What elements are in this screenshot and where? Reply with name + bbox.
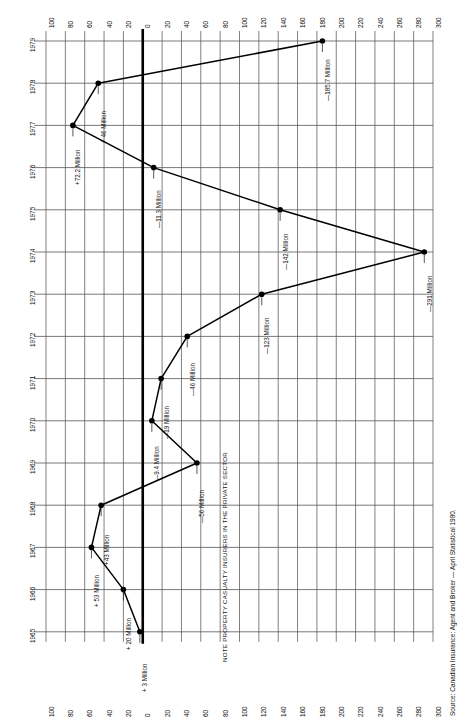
value-tick-bottom-20-6: 20 <box>165 710 171 717</box>
value-tick-top-140-12: 140 <box>281 17 287 28</box>
value-tick-top-60-2: 60 <box>87 21 93 28</box>
data-point-marker <box>70 123 76 129</box>
value-tick-bottom-160-13: 160 <box>300 706 306 717</box>
value-tick-bottom-260-18: 260 <box>397 706 403 717</box>
data-point-label-1975: —142 Million <box>283 233 289 269</box>
value-tick-bottom-40-3: 40 <box>107 710 113 717</box>
value-tick-bottom-180-14: 180 <box>320 706 326 717</box>
value-tick-top-260-18: 260 <box>397 17 403 28</box>
value-tick-top-20-6: 20 <box>165 21 171 28</box>
value-tick-top-240-17: 240 <box>378 17 384 28</box>
value-tick-top-180-14: 180 <box>320 17 326 28</box>
value-tick-top-120-11: 120 <box>261 17 267 28</box>
value-tick-bottom-80-1: 80 <box>68 710 74 717</box>
value-tick-top-0-5: 0 <box>145 24 151 28</box>
data-point-marker <box>194 460 200 466</box>
data-point-label-1976: —11.3 Million <box>156 190 162 228</box>
value-tick-top-20-4: 20 <box>126 21 132 28</box>
value-tick-bottom-240-17: 240 <box>378 706 384 717</box>
category-axis-label-1976: 1976 <box>30 164 36 178</box>
data-point-marker <box>259 291 265 297</box>
data-point-label-1967: + 53 Million <box>94 575 100 607</box>
data-point-label-1972: —46 Million <box>190 363 196 396</box>
value-tick-top-40-7: 40 <box>184 21 190 28</box>
chart-source-caption: Source: Canadian Insurance: Agent and Br… <box>450 509 457 716</box>
category-axis-label-1973: 1973 <box>30 291 36 305</box>
value-tick-bottom-280-19: 280 <box>416 706 422 717</box>
value-tick-top-80-1: 80 <box>68 21 74 28</box>
value-tick-bottom-140-12: 140 <box>281 706 287 717</box>
value-tick-bottom-0-5: 0 <box>145 713 151 717</box>
data-point-marker <box>89 545 95 551</box>
value-tick-top-300-20: 300 <box>436 17 442 28</box>
data-point-label-1977: +72.2 Million <box>75 150 81 186</box>
value-tick-top-160-13: 160 <box>300 17 306 28</box>
category-axis-label-1975: 1975 <box>30 207 36 221</box>
value-tick-top-220-16: 220 <box>358 17 364 28</box>
chart-note-annotation: NOTE PROPERTY CASUALTY INSURERS IN THE P… <box>222 452 228 662</box>
category-axis-label-1970: 1970 <box>30 418 36 432</box>
data-point-marker <box>184 334 190 340</box>
data-point-label-1971: —19 Million <box>164 406 170 439</box>
data-point-marker <box>95 80 101 86</box>
value-tick-bottom-220-16: 220 <box>358 706 364 717</box>
data-point-marker <box>421 249 427 255</box>
data-point-marker <box>149 418 155 424</box>
value-tick-top-60-8: 60 <box>203 21 209 28</box>
value-tick-top-80-9: 80 <box>223 21 229 28</box>
data-point-marker <box>158 376 164 382</box>
category-axis-label-1969: 1969 <box>30 460 36 474</box>
value-tick-bottom-40-7: 40 <box>184 710 190 717</box>
value-tick-bottom-120-11: 120 <box>261 706 267 717</box>
value-tick-bottom-100-0: 100 <box>49 706 55 717</box>
category-axis-label-1974: 1974 <box>30 249 36 263</box>
data-point-label-1970: —9.4 Million <box>154 446 160 481</box>
value-tick-top-280-19: 280 <box>416 17 422 28</box>
value-tick-top-200-15: 200 <box>339 17 345 28</box>
category-axis-label-1978: 1978 <box>30 80 36 94</box>
value-tick-top-40-3: 40 <box>107 21 113 28</box>
value-tick-top-100-0: 100 <box>49 17 55 28</box>
data-point-label-1965: + 3 Million <box>142 663 148 692</box>
data-point-marker <box>320 38 326 44</box>
category-axis-label-1968: 1968 <box>30 502 36 516</box>
category-axis-label-1972: 1972 <box>30 333 36 347</box>
data-point-marker <box>137 629 143 635</box>
value-tick-bottom-60-2: 60 <box>87 710 93 717</box>
value-tick-top-100-10: 100 <box>242 17 248 28</box>
data-point-label-1968: +43 Million <box>104 535 110 565</box>
value-tick-bottom-60-8: 60 <box>203 710 209 717</box>
data-point-label-1978: + 46 Million <box>101 111 107 143</box>
value-tick-bottom-100-10: 100 <box>242 706 248 717</box>
value-tick-bottom-20-4: 20 <box>126 710 132 717</box>
category-axis-label-1965: 1965 <box>30 629 36 643</box>
data-point-marker <box>151 165 157 171</box>
data-point-label-1973: —123 Million <box>264 318 270 354</box>
data-point-label-1974: —291 Million <box>427 276 433 312</box>
category-axis-label-1966: 1966 <box>30 586 36 600</box>
category-axis-label-1971: 1971 <box>30 375 36 389</box>
label-leader-lines <box>73 44 424 643</box>
data-point-marker <box>98 502 104 508</box>
category-axis-label-1977: 1977 <box>30 122 36 136</box>
value-tick-bottom-200-15: 200 <box>339 706 345 717</box>
value-tick-bottom-300-20: 300 <box>436 706 442 717</box>
value-tick-bottom-80-9: 80 <box>223 710 229 717</box>
data-point-label-1966: + 20 Million <box>126 618 132 650</box>
data-point-label-1969: —56 Million <box>199 490 205 523</box>
category-axis-label-1967: 1967 <box>30 544 36 558</box>
data-point-marker <box>121 587 127 593</box>
grid-horizontal-lines <box>34 41 433 632</box>
data-point-marker <box>277 207 283 213</box>
category-axis-label-1979: 1979 <box>30 38 36 52</box>
data-point-label-1979: —185.7 Million <box>325 59 331 101</box>
